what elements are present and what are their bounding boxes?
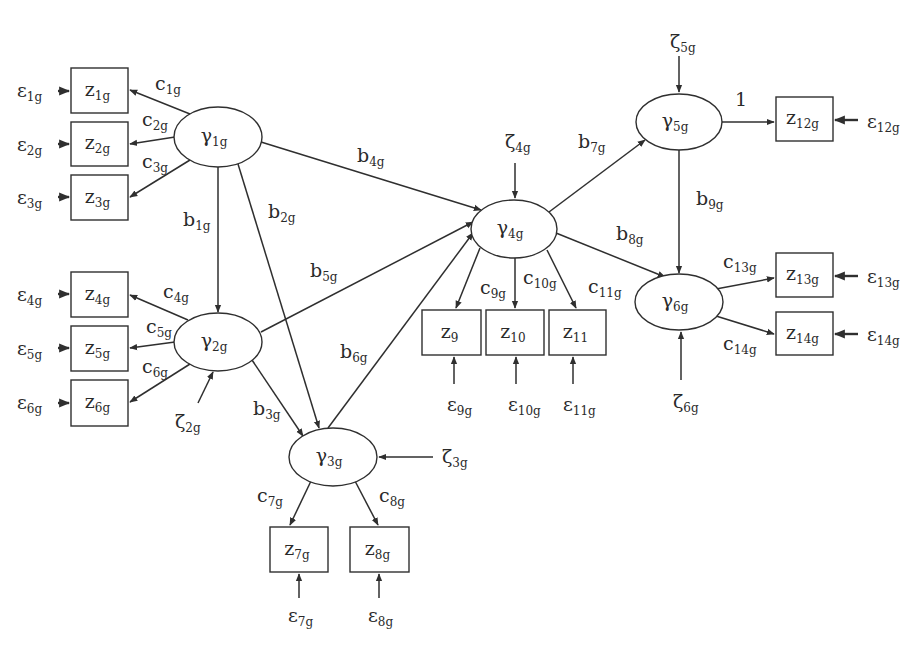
epsilon-label-subscript: 6g — [27, 402, 43, 416]
observed-node-z4: z4g — [71, 272, 128, 317]
arrow-icon — [261, 142, 481, 210]
epsilon-label-symbol: ε — [17, 391, 27, 413]
sem-path-diagram: γ1gγ2gγ3gγ4gγ5gγ6gz1gz2gz3gz4gz5gz6gz7gz… — [0, 0, 917, 651]
coefficient-label-symbol: b — [268, 200, 280, 222]
epsilon-label: ε11g — [563, 393, 596, 418]
latent-node-gamma3: γ3g — [289, 428, 377, 486]
latent-label-symbol: γ — [201, 329, 212, 351]
zeta-label-symbol: ζ — [505, 130, 515, 152]
epsilon-label-subscript: 11g — [573, 404, 596, 418]
epsilon-label-subscript: 3g — [27, 197, 43, 211]
coefficient-label-symbol: c — [146, 315, 157, 337]
epsilon-label-symbol: ε — [867, 110, 877, 132]
zeta-label-subscript: 6g — [683, 401, 699, 415]
coefficient-label-symbol: b — [310, 259, 322, 281]
coefficient-label-symbol: c — [480, 276, 491, 298]
observed-label-symbol: z — [563, 320, 573, 342]
coefficient-label-symbol: b — [578, 130, 590, 152]
coefficient-label-symbol: c — [257, 484, 268, 506]
observed-label-symbol: z — [441, 320, 451, 342]
arrow-icon — [556, 233, 665, 277]
epsilon-label-symbol: ε — [867, 323, 877, 345]
coefficient-label-symbol: b — [183, 208, 195, 230]
epsilon-label-subscript: 5g — [27, 348, 43, 362]
observed-node-z2: z2g — [71, 122, 128, 166]
epsilon-label: ε3g — [17, 186, 42, 211]
zeta-label-subscript: 4g — [515, 141, 531, 155]
observed-label-symbol: z — [786, 262, 796, 284]
coefficient-label-symbol: b — [253, 397, 265, 419]
coefficient-label: b6g — [340, 340, 368, 365]
coefficient-label: b5g — [310, 259, 338, 284]
disturbance-term — [198, 372, 213, 403]
coefficient-label-subscript: 8g — [628, 233, 644, 247]
coefficient-label-symbol: c — [163, 280, 174, 302]
coefficient-label-subscript: 1g — [195, 219, 211, 233]
coefficient-label-symbol: 1 — [735, 88, 747, 110]
epsilon-label: ε7g — [288, 604, 313, 629]
coefficient-label: b9g — [696, 187, 724, 212]
coefficient-label: c8g — [379, 484, 405, 509]
coefficient-label: c5g — [146, 315, 172, 340]
coefficient-label-symbol: c — [379, 484, 390, 506]
arrow-icon — [130, 137, 175, 144]
zeta-label-symbol: ζ — [673, 390, 683, 412]
coefficient-label-symbol: b — [696, 187, 708, 209]
zeta-label-subscript: 5g — [680, 41, 696, 55]
path-gamma4-to-z9 — [456, 248, 480, 308]
epsilon-label-subscript: 9g — [457, 404, 473, 418]
coefficient-label-symbol: c — [723, 332, 734, 354]
observed-label-symbol: z — [85, 131, 95, 153]
zeta-label-subscript: 3g — [452, 456, 468, 470]
coefficient-label: 1 — [735, 88, 747, 110]
epsilon-label: ε4g — [17, 283, 42, 308]
zeta-label-symbol: ζ — [670, 30, 680, 52]
coefficient-label-symbol: c — [523, 266, 534, 288]
arrow-icon — [130, 342, 175, 348]
coefficient-label: c9g — [480, 276, 506, 301]
coefficient-label-subscript: 2g — [153, 119, 169, 133]
latent-label-symbol: γ — [316, 444, 327, 466]
observed-node-z1: z1g — [71, 68, 128, 113]
coefficient-label-symbol: c — [142, 108, 153, 130]
observed-label-symbol: z — [500, 320, 510, 342]
coefficient-label-subscript: 4g — [174, 291, 190, 305]
path-gamma3-to-z8 — [355, 481, 378, 525]
zeta-label: ζ2g — [175, 410, 201, 435]
observed-node-z6: z6g — [71, 380, 128, 426]
coefficient-label: b3g — [253, 397, 281, 422]
observed-label-subscript: 4g — [95, 293, 111, 307]
epsilon-label-subscript: 13g — [877, 276, 900, 290]
path-gamma2-to-z5 — [130, 342, 175, 348]
epsilon-label-symbol: ε — [508, 393, 518, 415]
latent-node-gamma5: γ5g — [636, 94, 722, 150]
zeta-label: ζ5g — [670, 30, 696, 55]
path-gamma1-to-gamma4 — [261, 142, 481, 210]
observed-node-z11: z11 — [549, 310, 606, 355]
zeta-label: ζ3g — [442, 445, 468, 470]
observed-label-subscript: 1g — [95, 89, 111, 103]
epsilon-label-subscript: 1g — [27, 90, 43, 104]
coefficient-label: c2g — [142, 108, 168, 133]
coefficient-label-subscript: 11g — [599, 286, 622, 300]
epsilon-label-subscript: 8g — [378, 615, 394, 629]
latent-label-subscript: 1g — [212, 135, 228, 149]
observed-label-subscript: 6g — [95, 401, 111, 415]
coefficient-label-subscript: 4g — [369, 155, 385, 169]
coefficient-label-subscript: 6g — [153, 366, 169, 380]
arrow-icon — [290, 481, 311, 525]
coefficient-label: b1g — [183, 208, 211, 233]
observed-label-subscript: 10 — [510, 331, 525, 345]
latent-label-subscript: 6g — [673, 300, 689, 314]
epsilon-label-subscript: 12g — [877, 121, 900, 135]
observed-node-z10: z10 — [486, 310, 544, 355]
epsilon-label: ε12g — [867, 110, 900, 135]
epsilon-label-subscript: 2g — [27, 144, 43, 158]
observed-label-symbol: z — [85, 336, 95, 358]
coefficient-label: c7g — [257, 484, 283, 509]
observed-label-subscript: 14g — [796, 332, 819, 346]
coefficient-label: c14g — [723, 332, 757, 357]
epsilon-label: ε14g — [867, 323, 900, 348]
zeta-label-symbol: ζ — [175, 410, 185, 432]
coefficient-label-symbol: c — [142, 355, 153, 377]
